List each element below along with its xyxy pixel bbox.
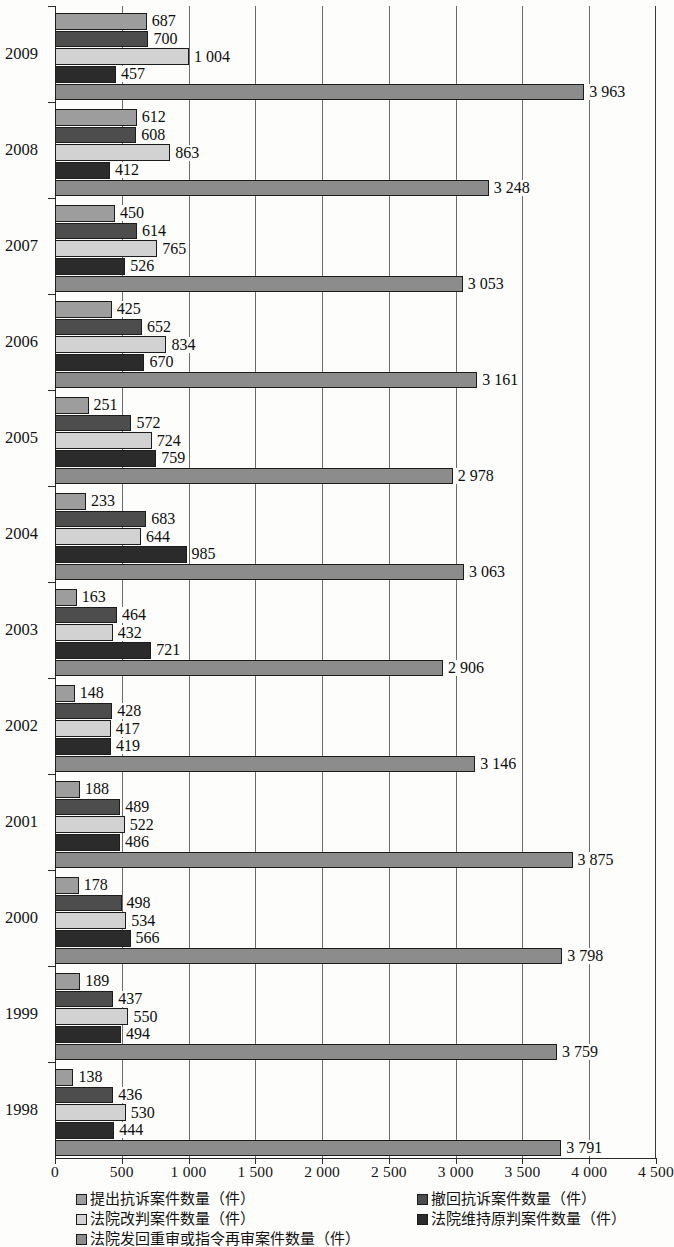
category-separator bbox=[55, 390, 56, 397]
bar bbox=[55, 109, 137, 126]
year-label: 2004 bbox=[5, 524, 38, 544]
bar-value-label: 614 bbox=[140, 223, 167, 239]
bar bbox=[55, 1008, 128, 1025]
legend-item[interactable]: 法院发回重审或指令再审案件数量（件） bbox=[76, 1232, 360, 1247]
bar-value-label: 444 bbox=[117, 1122, 144, 1138]
bar-value-label: 425 bbox=[115, 301, 142, 317]
legend-item[interactable]: 法院改判案件数量（件） bbox=[76, 1212, 255, 1227]
bar-value-label: 251 bbox=[92, 397, 119, 413]
bar-value-label: 419 bbox=[114, 738, 141, 754]
bar bbox=[55, 991, 113, 1008]
bar-value-label: 3 759 bbox=[560, 1044, 599, 1060]
bar bbox=[55, 1140, 561, 1157]
legend-swatch-icon bbox=[76, 1214, 87, 1225]
legend-swatch-icon bbox=[76, 1234, 87, 1245]
bar bbox=[55, 973, 80, 990]
category-separator bbox=[55, 294, 56, 301]
bar-value-label: 3 053 bbox=[466, 276, 505, 292]
bar bbox=[55, 162, 110, 179]
bar-value-label: 417 bbox=[114, 721, 141, 737]
bar-value-label: 608 bbox=[139, 127, 166, 143]
category-tick bbox=[48, 486, 55, 487]
bar-group: 19991894375504943 759 bbox=[55, 966, 656, 1062]
bar-value-label: 3 146 bbox=[478, 756, 517, 772]
bar-value-label: 721 bbox=[154, 642, 181, 658]
bar-value-label: 189 bbox=[83, 973, 110, 989]
legend-label: 法院维持原判案件数量（件） bbox=[431, 1212, 626, 1227]
bar bbox=[55, 624, 113, 641]
bar-group: 20042336836449853 063 bbox=[55, 486, 656, 582]
legend-item[interactable]: 法院维持原判案件数量（件） bbox=[417, 1212, 626, 1227]
x-axis-line bbox=[55, 1158, 656, 1159]
bar-value-label: 464 bbox=[120, 607, 147, 623]
bar bbox=[55, 852, 573, 869]
bar-value-label: 765 bbox=[160, 241, 187, 257]
bar bbox=[55, 738, 111, 755]
legend-label: 撤回抗诉案件数量（件） bbox=[431, 1192, 596, 1207]
category-tick bbox=[48, 390, 55, 391]
bar bbox=[55, 589, 77, 606]
bar bbox=[55, 912, 126, 929]
category-separator bbox=[55, 1062, 56, 1069]
category-separator bbox=[55, 102, 56, 109]
legend-label: 提出抗诉案件数量（件） bbox=[90, 1192, 255, 1207]
x-tick-label: 3 500 bbox=[505, 1163, 541, 1181]
legend-item[interactable]: 撤回抗诉案件数量（件） bbox=[417, 1192, 596, 1207]
bar-value-label: 572 bbox=[134, 415, 161, 431]
bar bbox=[55, 546, 187, 563]
bar-value-label: 2 978 bbox=[456, 468, 495, 484]
bar bbox=[55, 223, 137, 240]
legend-item[interactable]: 提出抗诉案件数量（件） bbox=[76, 1192, 255, 1207]
bar bbox=[55, 930, 131, 947]
bar-value-label: 494 bbox=[124, 1026, 151, 1042]
category-separator bbox=[55, 870, 56, 877]
bar bbox=[55, 415, 131, 432]
year-label: 2001 bbox=[5, 812, 38, 832]
bar bbox=[55, 528, 141, 545]
bar bbox=[55, 354, 144, 371]
bar-group: 20001784985345663 798 bbox=[55, 870, 656, 966]
bar bbox=[55, 48, 189, 65]
year-label: 2007 bbox=[5, 236, 38, 256]
bar bbox=[55, 336, 166, 353]
bar bbox=[55, 756, 475, 773]
bar-group: 19981384365304443 791 bbox=[55, 1062, 656, 1158]
bar-value-label: 526 bbox=[128, 258, 155, 274]
bar-value-label: 1 004 bbox=[192, 49, 231, 65]
bar-value-label: 652 bbox=[145, 319, 172, 335]
category-tick bbox=[48, 966, 55, 967]
bar-value-label: 3 063 bbox=[467, 564, 506, 580]
bar-value-label: 2 906 bbox=[446, 660, 485, 676]
bar bbox=[55, 468, 453, 485]
bar bbox=[55, 1044, 557, 1061]
bar-value-label: 188 bbox=[83, 781, 110, 797]
bar bbox=[55, 1026, 121, 1043]
category-separator bbox=[55, 486, 56, 493]
x-tick-label: 4 000 bbox=[571, 1163, 607, 1181]
bar-value-label: 233 bbox=[89, 493, 116, 509]
bar-value-label: 498 bbox=[125, 895, 152, 911]
bar bbox=[55, 127, 136, 144]
year-label: 2005 bbox=[5, 428, 38, 448]
category-tick bbox=[48, 582, 55, 583]
category-separator bbox=[55, 966, 56, 973]
bar bbox=[55, 895, 122, 912]
bar-value-label: 644 bbox=[144, 529, 171, 545]
x-tick-label: 3 000 bbox=[438, 1163, 474, 1181]
bar bbox=[55, 180, 489, 197]
bar bbox=[55, 450, 156, 467]
bar-value-label: 138 bbox=[76, 1069, 103, 1085]
bar bbox=[55, 703, 112, 720]
bar-value-label: 3 791 bbox=[564, 1140, 603, 1156]
bar bbox=[55, 1104, 126, 1121]
bar-value-label: 834 bbox=[169, 337, 196, 353]
bar bbox=[55, 1069, 73, 1086]
bar bbox=[55, 205, 115, 222]
bar-value-label: 450 bbox=[118, 205, 145, 221]
x-tick-label: 500 bbox=[110, 1163, 134, 1181]
bar-value-label: 566 bbox=[134, 930, 161, 946]
bar-group: 20096877001 0044573 963 bbox=[55, 6, 656, 102]
bar bbox=[55, 720, 111, 737]
bar-value-label: 530 bbox=[129, 1105, 156, 1121]
